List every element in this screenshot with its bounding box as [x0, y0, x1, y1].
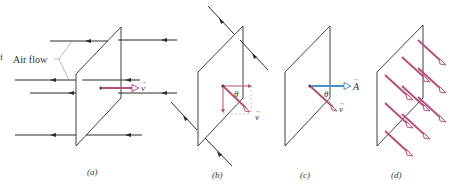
- arrowhead-icon: [217, 151, 222, 157]
- airflow-pointer: [54, 41, 72, 59]
- velocity-arrowhead-icon: [243, 105, 250, 112]
- vector-arrow-icon: →: [353, 76, 359, 82]
- velocity-field: [385, 40, 446, 156]
- panel-d: (d): [377, 25, 446, 180]
- caption-d: (d): [391, 170, 402, 180]
- arrowhead-icon: [161, 38, 167, 42]
- surface-plane: [76, 27, 121, 146]
- velocity-arrowhead-icon: [132, 85, 139, 92]
- arrowhead-icon: [50, 78, 56, 82]
- arrowhead-icon: [85, 39, 91, 43]
- arrowhead-icon: [125, 78, 131, 82]
- caption-b: (b): [212, 170, 223, 180]
- edge-fragment: f: [0, 52, 3, 62]
- arrowhead-icon: [221, 109, 225, 113]
- flux-diagram: f Air flow v → (a): [0, 0, 454, 188]
- arrowhead-icon: [68, 91, 74, 95]
- arrowhead-icon: [248, 84, 252, 88]
- panel-a: Air flow v → (a): [13, 27, 160, 177]
- arrowhead-icon: [50, 133, 56, 137]
- panel-c: A → θ v → (c): [285, 26, 360, 180]
- caption-c: (c): [300, 170, 310, 180]
- airflow-line: [205, 138, 232, 166]
- arrowhead-icon: [125, 133, 131, 137]
- arrowhead-icon: [161, 91, 167, 95]
- velocity-arrowhead-icon: [330, 104, 337, 111]
- vector-arrow-icon: →: [255, 108, 261, 114]
- theta-label: θ: [324, 89, 329, 99]
- area-label: A: [352, 81, 360, 92]
- vector-arrow-icon: →: [141, 79, 147, 85]
- airflow-label: Air flow: [13, 54, 48, 65]
- area-arrowhead-icon: [344, 83, 351, 90]
- theta-label: θ: [234, 89, 239, 99]
- panel-b: θ v → (b): [160, 6, 268, 180]
- airflow-pointer: [59, 59, 69, 80]
- vector-arrow-icon: →: [339, 100, 345, 106]
- caption-a: (a): [87, 167, 98, 177]
